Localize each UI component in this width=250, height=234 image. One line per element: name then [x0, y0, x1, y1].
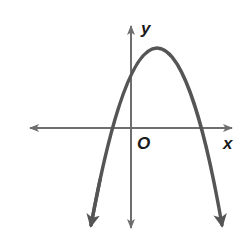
x-axis-label: x	[222, 134, 234, 153]
parabola-left-branch	[91, 180, 100, 225]
y-axis-label: y	[140, 19, 152, 38]
coordinate-graph: y x O	[0, 0, 250, 234]
origin-label: O	[137, 134, 150, 153]
parabola-curve	[91, 48, 222, 225]
